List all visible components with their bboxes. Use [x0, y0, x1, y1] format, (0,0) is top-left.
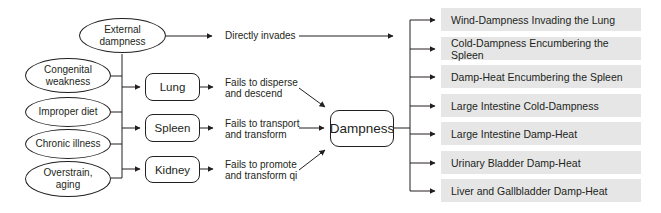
outcome-box: Urinary Bladder Damp-Heat [441, 151, 641, 174]
cause-external-dampness: Externaldampness [79, 18, 166, 53]
spleen-dysfunction-label: Fails to transportand transform [225, 118, 299, 140]
organ-spleen: Spleen [145, 114, 200, 142]
kidney-dysfunction-label: Fails to promoteand transform qi [225, 159, 297, 181]
organ-kidney: Kidney [145, 156, 200, 183]
direct-path-label: Directly invades [225, 30, 296, 41]
outcome-box: Large Intestine Damp-Heat [441, 122, 641, 145]
outcome-box: Damp-Heat Encumbering the Spleen [441, 65, 641, 88]
outcome-box: Cold-Dampness Encumbering the Spleen [441, 37, 641, 60]
organ-lung: Lung [145, 73, 200, 101]
cause-congenital-weakness: Congenitalweakness [25, 58, 111, 93]
outcome-box: Wind-Dampness Invading the Lung [441, 8, 641, 31]
dampness-node: Dampness [330, 110, 394, 147]
outcome-box: Liver and Gallbladder Damp-Heat [441, 179, 641, 202]
cause-improper-diet: Improper diet [25, 97, 111, 127]
cause-overstrain-aging: Overstrain,aging [25, 161, 111, 197]
cause-chronic-illness: Chronic illness [25, 129, 111, 159]
outcome-box: Large Intestine Cold-Dampness [441, 94, 641, 117]
lung-dysfunction-label: Fails to disperseand descend [225, 77, 298, 99]
